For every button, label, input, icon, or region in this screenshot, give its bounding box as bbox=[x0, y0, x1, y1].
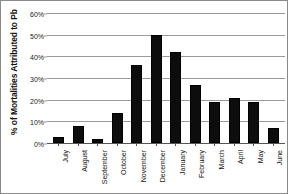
x-tick-slot bbox=[88, 143, 108, 146]
x-tick-mark bbox=[214, 143, 215, 146]
x-label-slot: June bbox=[264, 148, 284, 192]
y-tick-label: 0% bbox=[34, 141, 44, 148]
x-tick-mark bbox=[78, 143, 79, 146]
x-tick-slot bbox=[147, 143, 167, 146]
x-label-slot: August bbox=[69, 148, 89, 192]
x-tick-mark bbox=[156, 143, 157, 146]
bar-slot bbox=[88, 13, 108, 143]
x-label-slot: January bbox=[166, 148, 186, 192]
x-axis-labels: JulyAugustSeptemberOctoberNovemberDecemb… bbox=[47, 148, 285, 192]
bar bbox=[112, 113, 123, 143]
x-tick-mark bbox=[97, 143, 98, 146]
x-label-slot: July bbox=[49, 148, 69, 192]
bar bbox=[209, 102, 220, 143]
bar-chart-figure: % of Mortalities Attributed to Pb 0%10%2… bbox=[0, 0, 288, 194]
x-tick-mark bbox=[273, 143, 274, 146]
bar bbox=[151, 35, 162, 143]
y-tick-label: 50% bbox=[30, 32, 44, 39]
bar bbox=[170, 52, 181, 143]
x-tick-mark bbox=[234, 143, 235, 146]
y-axis-title: % of Mortalities Attributed to Pb bbox=[9, 0, 19, 147]
x-label-slot: March bbox=[205, 148, 225, 192]
x-tick-slot bbox=[69, 143, 89, 146]
y-tick-label: 40% bbox=[30, 54, 44, 61]
bar-slot bbox=[244, 13, 264, 143]
x-tick-slot bbox=[205, 143, 225, 146]
bar-slot bbox=[186, 13, 206, 143]
x-tick-mark bbox=[58, 143, 59, 146]
x-label-slot: February bbox=[186, 148, 206, 192]
x-tick-mark bbox=[195, 143, 196, 146]
y-tick-label: 30% bbox=[30, 76, 44, 83]
x-label-slot: May bbox=[244, 148, 264, 192]
bar-slot bbox=[166, 13, 186, 143]
x-tick-slot bbox=[264, 143, 284, 146]
bar-slot bbox=[127, 13, 147, 143]
bar bbox=[229, 98, 240, 144]
x-tick-slot bbox=[49, 143, 69, 146]
y-tick-label: 60% bbox=[30, 11, 44, 18]
x-tick-slot bbox=[108, 143, 128, 146]
bar bbox=[190, 85, 201, 144]
bar bbox=[248, 102, 259, 143]
bar-slot bbox=[69, 13, 89, 143]
bar-series bbox=[47, 13, 285, 143]
x-tick-mark bbox=[175, 143, 176, 146]
x-label-slot: November bbox=[127, 148, 147, 192]
x-axis-label-june: June bbox=[276, 150, 283, 190]
bar bbox=[73, 126, 84, 143]
x-label-slot: April bbox=[225, 148, 245, 192]
bar-slot bbox=[147, 13, 167, 143]
x-tick-slot bbox=[225, 143, 245, 146]
bar bbox=[131, 65, 142, 143]
x-tick-mark bbox=[136, 143, 137, 146]
bar-slot bbox=[205, 13, 225, 143]
bar-slot bbox=[108, 13, 128, 143]
plot-area: 0%10%20%30%40%50%60% bbox=[47, 13, 285, 143]
x-tick-slot bbox=[244, 143, 264, 146]
bar-slot bbox=[49, 13, 69, 143]
x-label-slot: October bbox=[108, 148, 128, 192]
x-tick-mark bbox=[253, 143, 254, 146]
bar-slot bbox=[225, 13, 245, 143]
x-label-slot: December bbox=[147, 148, 167, 192]
y-tick-label: 10% bbox=[30, 119, 44, 126]
x-tick-mark bbox=[117, 143, 118, 146]
x-tick-slot bbox=[186, 143, 206, 146]
y-tick-label: 20% bbox=[30, 97, 44, 104]
bar bbox=[268, 128, 279, 143]
x-tick-slot bbox=[166, 143, 186, 146]
x-label-slot: September bbox=[88, 148, 108, 192]
x-tick-slot bbox=[127, 143, 147, 146]
x-axis-ticks bbox=[47, 143, 285, 146]
bar-slot bbox=[264, 13, 284, 143]
